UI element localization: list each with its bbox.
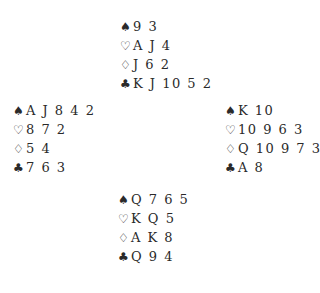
south-clubs-row: ♣Q 9 4 (118, 247, 189, 266)
east-clubs: A 8 (238, 158, 264, 177)
north-hearts-row: ♡A J 4 (120, 36, 213, 55)
east-diamonds-row: ♢Q 10 9 7 3 (225, 139, 320, 158)
south-spades-row: ♠Q 7 6 5 (118, 190, 189, 209)
diamond-icon: ♢ (120, 56, 133, 75)
heart-icon: ♡ (225, 121, 238, 140)
club-icon: ♣ (120, 75, 133, 94)
east-hand: ♠K 10 ♡10 9 6 3 ♢Q 10 9 7 3 ♣A 8 (225, 101, 320, 177)
north-clubs: K J 10 5 2 (133, 74, 213, 93)
club-icon: ♣ (225, 159, 238, 178)
west-hearts-row: ♡8 7 2 (13, 120, 95, 139)
north-spades-row: ♠9 3 (120, 17, 213, 36)
west-diamonds-row: ♢5 4 (13, 139, 95, 158)
south-spades: Q 7 6 5 (131, 190, 189, 209)
south-diamonds-row: ♢A K 8 (118, 228, 189, 247)
spade-icon: ♠ (118, 191, 131, 210)
heart-icon: ♡ (120, 37, 133, 56)
east-diamonds: Q 10 9 7 3 (238, 139, 320, 158)
south-hearts-row: ♡K Q 5 (118, 209, 189, 228)
north-diamonds-row: ♢J 6 2 (120, 55, 213, 74)
north-hand: ♠9 3 ♡A J 4 ♢J 6 2 ♣K J 10 5 2 (120, 17, 213, 93)
heart-icon: ♡ (13, 121, 26, 140)
east-hearts: 10 9 6 3 (238, 120, 304, 139)
west-spades-row: ♠A J 8 4 2 (13, 101, 95, 120)
diamond-icon: ♢ (13, 140, 26, 159)
west-clubs: 7 6 3 (26, 158, 67, 177)
east-spades: K 10 (238, 101, 274, 120)
east-spades-row: ♠K 10 (225, 101, 320, 120)
spade-icon: ♠ (13, 102, 26, 121)
heart-icon: ♡ (118, 210, 131, 229)
spade-icon: ♠ (120, 18, 133, 37)
west-hand: ♠A J 8 4 2 ♡8 7 2 ♢5 4 ♣7 6 3 (13, 101, 95, 177)
south-diamonds: A K 8 (131, 228, 174, 247)
north-diamonds: J 6 2 (133, 55, 171, 74)
north-hearts: A J 4 (133, 36, 172, 55)
south-clubs: Q 9 4 (131, 247, 174, 266)
south-hand: ♠Q 7 6 5 ♡K Q 5 ♢A K 8 ♣Q 9 4 (118, 190, 189, 266)
diamond-icon: ♢ (225, 140, 238, 159)
club-icon: ♣ (13, 159, 26, 178)
west-hearts: 8 7 2 (26, 120, 67, 139)
club-icon: ♣ (118, 248, 131, 267)
south-hearts: K Q 5 (131, 209, 175, 228)
north-spades: 9 3 (133, 17, 158, 36)
east-hearts-row: ♡10 9 6 3 (225, 120, 320, 139)
diamond-icon: ♢ (118, 229, 131, 248)
west-diamonds: 5 4 (26, 139, 51, 158)
east-clubs-row: ♣A 8 (225, 158, 320, 177)
spade-icon: ♠ (225, 102, 238, 121)
west-clubs-row: ♣7 6 3 (13, 158, 95, 177)
north-clubs-row: ♣K J 10 5 2 (120, 74, 213, 93)
west-spades: A J 8 4 2 (26, 101, 95, 120)
